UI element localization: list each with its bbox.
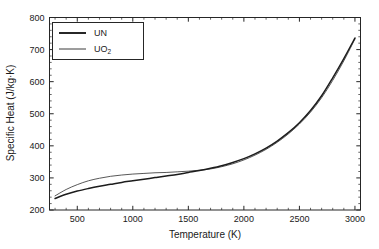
tick-label: 3000 [345,214,365,224]
tick-label: 500 [29,109,44,119]
y-axis-title: Specific Heat (J/kg·K) [5,65,16,162]
tick-label: 2000 [234,214,254,224]
tick-label: 400 [29,141,44,151]
tick-label: 2500 [289,214,309,224]
tick-label: 800 [29,13,44,23]
x-axis-title: Temperature (K) [169,229,241,240]
tick-label: 200 [29,205,44,215]
tick-label: 1500 [178,214,198,224]
chart-legend: UN UO2 [53,23,144,60]
tick-label: 700 [29,45,44,55]
tick-label: 1000 [123,214,143,224]
legend-label-un: UN [94,28,107,38]
tick-label: 300 [29,173,44,183]
chart-figure: 5001000150020002500300020030040050060070… [0,0,379,249]
chart-svg: 5001000150020002500300020030040050060070… [0,0,379,249]
tick-label: 600 [29,77,44,87]
tick-label: 500 [70,214,85,224]
